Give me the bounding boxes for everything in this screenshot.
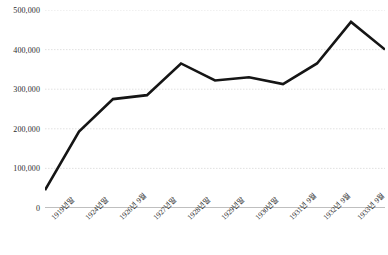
x-axis-tick-label: 1927년말 [150,214,158,222]
x-axis-tick-label: 1932년 9월 [320,214,328,222]
x-axis-tick-label: 1929년말 [218,214,226,222]
line-chart: 0100,000200,000300,000400,000500,000 191… [0,0,388,255]
x-axis-tick-label: 1919년말 [48,214,56,222]
x-axis-tick-label: 1926년 9월 [116,214,124,222]
x-axis-tick-label: 1930년말 [252,214,260,222]
x-axis-tick-label: 1931년 9월 [286,214,294,222]
x-axis-tick-label: 1924년말 [82,214,90,222]
x-axis: 1919년말1924년말1926년 9월1927년말1928년말1929년말19… [0,0,388,255]
x-axis-tick-label: 1933년 9월 [354,214,362,222]
x-axis-tick-label: 1928년말 [184,214,192,222]
